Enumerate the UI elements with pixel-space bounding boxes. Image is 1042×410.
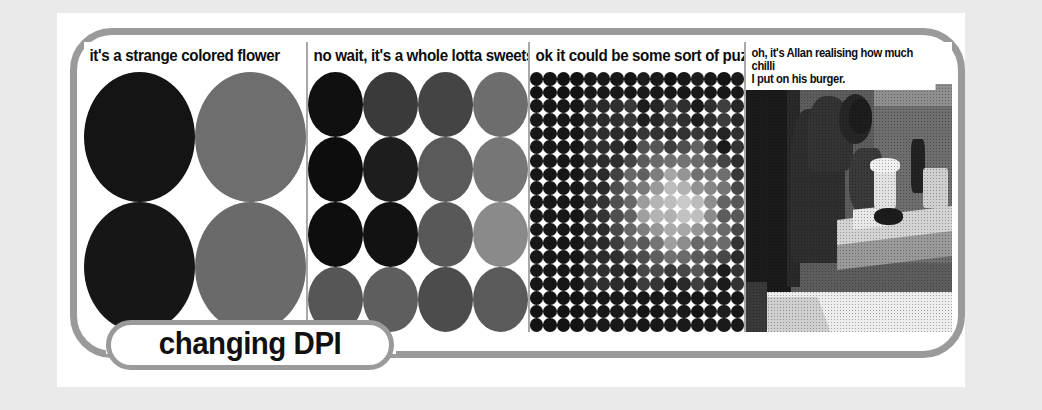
halftone-dot [570, 291, 583, 305]
halftone-dot [731, 277, 744, 291]
halftone-dot [557, 113, 570, 127]
halftone-dot [597, 72, 610, 86]
halftone-dot [570, 86, 583, 100]
circle-cell [363, 202, 418, 267]
halftone-dot [570, 277, 583, 291]
halftone-dot [664, 318, 677, 332]
halftone-dot [664, 72, 677, 86]
halftone-dot [610, 195, 623, 209]
halftone-dot [650, 86, 663, 100]
halftone-dot [637, 277, 650, 291]
halftone-dot [530, 113, 543, 127]
halftone-dot [557, 168, 570, 182]
halftone-dot [624, 305, 637, 319]
halftone-dot [584, 277, 597, 291]
circle-cell [195, 72, 306, 202]
halftone-dot [624, 223, 637, 237]
halftone-dot [543, 209, 556, 223]
halftone-dot [597, 264, 610, 278]
circle-cell [418, 267, 473, 332]
halftone-dot [704, 86, 717, 100]
halftone-dot [650, 236, 663, 250]
halftone-dot [677, 291, 690, 305]
halftone-dot [717, 181, 730, 195]
halftone-dot [637, 168, 650, 182]
halftone-dot [597, 140, 610, 154]
halftone-dot [557, 305, 570, 319]
halftone-dot [637, 154, 650, 168]
halftone-dot [597, 86, 610, 100]
halftone-dot [530, 277, 543, 291]
halftone-dot [597, 305, 610, 319]
halftone-dot [677, 127, 690, 141]
halftone-dot [691, 154, 704, 168]
panel-puzzle: ok it could be some sort of puzzle [528, 42, 744, 332]
circle-cell [308, 202, 363, 267]
halftone-dot [557, 86, 570, 100]
halftone-dot [717, 168, 730, 182]
halftone-dot [624, 291, 637, 305]
halftone-dot [584, 318, 597, 332]
halftone-dot [624, 140, 637, 154]
halftone-dot [717, 250, 730, 264]
halftone-dot [570, 127, 583, 141]
halftone-dot [610, 154, 623, 168]
halftone-dot [637, 209, 650, 223]
panel-strip: it's a strange colored flower no wait, i… [84, 42, 952, 332]
halftone-dot [704, 181, 717, 195]
halftone-dot [543, 181, 556, 195]
halftone-dot [650, 291, 663, 305]
halftone-dot [637, 264, 650, 278]
halftone-dot [691, 277, 704, 291]
halftone-dot [570, 250, 583, 264]
halftone-dot [543, 113, 556, 127]
halftone-dot [664, 127, 677, 141]
panel-photo: oh, it's Allan realising how much chilli… [744, 42, 952, 332]
halftone-dot [664, 195, 677, 209]
halftone-dot [557, 318, 570, 332]
circle-cell [308, 137, 363, 202]
halftone-dot [650, 168, 663, 182]
halftone-dot [650, 277, 663, 291]
halftone-dot [717, 318, 730, 332]
halftone-dot [530, 195, 543, 209]
halftone-dot [530, 305, 543, 319]
halftone-dot [530, 140, 543, 154]
halftone-dot [650, 127, 663, 141]
halftone-dot [717, 291, 730, 305]
halftone-dot-grid [530, 72, 744, 332]
halftone-dot [570, 209, 583, 223]
halftone-dot [543, 264, 556, 278]
panel-photo-caption-line-2: I put on his burger. [752, 73, 932, 86]
halftone-dot [637, 195, 650, 209]
panel-sweets: no wait, it's a whole lotta sweets [306, 42, 528, 332]
halftone-dot [650, 195, 663, 209]
halftone-dot [584, 168, 597, 182]
halftone-dot [570, 223, 583, 237]
circle-cell [418, 137, 473, 202]
halftone-dot [570, 72, 583, 86]
halftone-dot [597, 209, 610, 223]
halftone-dot [664, 277, 677, 291]
halftone-dot [637, 236, 650, 250]
halftone-dot [557, 291, 570, 305]
halftone-dot [584, 195, 597, 209]
halftone-dot [664, 305, 677, 319]
halftone-dot [731, 72, 744, 86]
halftone-dot [557, 195, 570, 209]
halftone-dot [691, 127, 704, 141]
halftone-dot [543, 236, 556, 250]
circle-cell [473, 137, 528, 202]
halftone-dot [717, 195, 730, 209]
halftone-dot [543, 305, 556, 319]
halftone-dot [597, 113, 610, 127]
halftone-dot [650, 99, 663, 113]
halftone-dot [731, 209, 744, 223]
halftone-dot [610, 236, 623, 250]
halftone-dot [610, 223, 623, 237]
halftone-dot [584, 223, 597, 237]
halftone-dot [584, 305, 597, 319]
halftone-dot [570, 154, 583, 168]
halftone-dot [691, 195, 704, 209]
halftone-dot [664, 264, 677, 278]
